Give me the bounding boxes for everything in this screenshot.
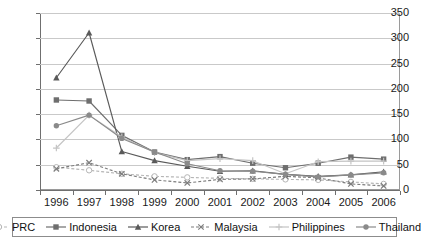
y-tick-mark bbox=[36, 13, 40, 14]
y-tick-label: 0 bbox=[375, 184, 409, 195]
legend-symbol-open-circle bbox=[0, 221, 10, 233]
data-point-filled-square bbox=[53, 224, 58, 229]
x-axis-line bbox=[40, 190, 400, 191]
chart-legend: PRCIndonesiaKoreaMalaysiaPhilippinesThai… bbox=[12, 217, 397, 237]
gridline bbox=[40, 114, 400, 115]
x-tick-mark bbox=[302, 191, 303, 195]
data-point-plus bbox=[275, 224, 282, 231]
x-tick-mark bbox=[171, 191, 172, 195]
gridline bbox=[40, 13, 400, 14]
legend-symbol-plus bbox=[268, 221, 290, 233]
y-tick-label: 150 bbox=[375, 108, 409, 119]
data-point-open-circle bbox=[0, 224, 2, 229]
legend-item-malaysia[interactable]: Malaysia bbox=[190, 221, 257, 233]
legend-item-indonesia[interactable]: Indonesia bbox=[45, 221, 117, 233]
legend-label: Thailand bbox=[379, 221, 421, 233]
gridline bbox=[40, 89, 400, 90]
legend-symbol-filled-circle bbox=[355, 221, 377, 233]
y-tick-mark bbox=[36, 165, 40, 166]
x-tick-label: 2006 bbox=[364, 196, 404, 208]
legend-label: Malaysia bbox=[214, 221, 257, 233]
y-tick-label: 200 bbox=[375, 83, 409, 94]
legend-item-thailand[interactable]: Thailand bbox=[355, 221, 421, 233]
legend-symbol-filled-square bbox=[45, 221, 67, 233]
x-tick-mark bbox=[367, 191, 368, 195]
y-tick-mark bbox=[36, 89, 40, 90]
x-tick-mark bbox=[204, 191, 205, 195]
x-tick-mark bbox=[269, 191, 270, 195]
x-tick-mark bbox=[335, 191, 336, 195]
x-tick-mark bbox=[400, 191, 401, 195]
y-tick-mark bbox=[36, 38, 40, 39]
gridline bbox=[40, 165, 400, 166]
y-tick-mark bbox=[36, 64, 40, 65]
legend-item-philippines[interactable]: Philippines bbox=[268, 221, 345, 233]
y-tick-mark bbox=[36, 114, 40, 115]
y-tick-label: 50 bbox=[375, 159, 409, 170]
gridline bbox=[40, 38, 400, 39]
data-point-filled-circle bbox=[363, 224, 368, 229]
y-tick-mark bbox=[36, 139, 40, 140]
y-tick-label: 250 bbox=[375, 58, 409, 69]
x-tick-mark bbox=[73, 191, 74, 195]
x-tick-mark bbox=[138, 191, 139, 195]
plot-area bbox=[40, 13, 400, 190]
x-tick-mark bbox=[40, 191, 41, 195]
legend-label: Philippines bbox=[292, 221, 345, 233]
legend-symbol-filled-triangle bbox=[127, 221, 149, 233]
y-tick-label: 300 bbox=[375, 32, 409, 43]
legend-label: PRC bbox=[12, 221, 35, 233]
legend-symbol-x-cross bbox=[190, 221, 212, 233]
gridline bbox=[40, 139, 400, 140]
legend-item-prc[interactable]: PRC bbox=[0, 221, 35, 233]
y-tick-label: 350 bbox=[375, 7, 409, 18]
y-tick-label: 100 bbox=[375, 133, 409, 144]
legend-label: Korea bbox=[151, 221, 180, 233]
x-tick-mark bbox=[236, 191, 237, 195]
legend-item-korea[interactable]: Korea bbox=[127, 221, 180, 233]
x-tick-mark bbox=[105, 191, 106, 195]
legend-label: Indonesia bbox=[69, 221, 117, 233]
gridline bbox=[40, 64, 400, 65]
